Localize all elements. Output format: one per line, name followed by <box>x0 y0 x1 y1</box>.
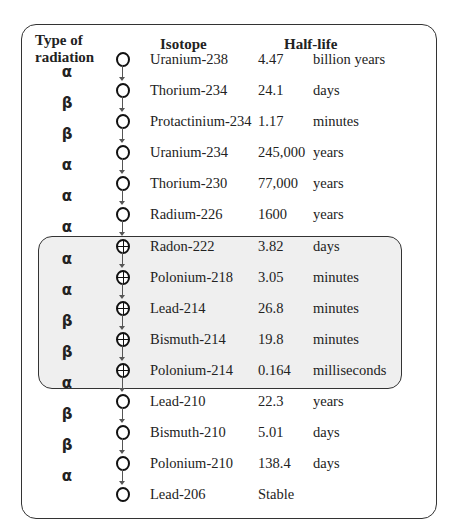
half-life-unit: minutes <box>313 113 359 130</box>
radiation-type-label: α <box>58 187 76 205</box>
half-life-unit: years <box>313 393 344 410</box>
radiation-type-label: α <box>58 281 76 299</box>
half-life-unit: minutes <box>313 269 359 286</box>
hatched-nucleus-icon <box>116 239 130 254</box>
decay-arrow-icon <box>122 407 123 421</box>
radiation-type-label: α <box>58 218 76 236</box>
decay-arrow-icon <box>122 65 123 79</box>
header-half-life: Half-life <box>284 37 337 52</box>
radiation-type-label: α <box>58 156 76 174</box>
half-life-value: 1600 <box>258 206 287 223</box>
radiation-type-label: β <box>58 312 76 330</box>
nucleus-icon <box>116 456 130 471</box>
half-life-value: 5.01 <box>258 424 283 441</box>
decay-arrow-icon <box>122 345 123 359</box>
half-life-value: 3.05 <box>258 269 283 286</box>
half-life-value: 19.8 <box>258 331 283 348</box>
radiation-type-label: β <box>58 94 76 112</box>
half-life-value: 245,000 <box>258 144 305 161</box>
radiation-type-label: α <box>58 250 76 268</box>
half-life-value: 24.1 <box>258 82 283 99</box>
half-life-unit: minutes <box>313 331 359 348</box>
half-life-unit: years <box>313 206 344 223</box>
half-life-unit: days <box>313 82 340 99</box>
hatched-nucleus-icon <box>116 301 130 316</box>
isotope-name: Thorium-234 <box>150 82 227 99</box>
nucleus-icon <box>116 52 130 67</box>
nucleus-icon <box>116 145 130 160</box>
radiation-type-label: β <box>58 436 76 454</box>
decay-arrow-icon <box>122 283 123 297</box>
half-life-unit: milliseconds <box>313 362 386 379</box>
half-life-unit: years <box>313 175 344 192</box>
half-life-value: Stable <box>258 486 294 503</box>
isotope-name: Lead-206 <box>150 486 206 503</box>
decay-arrow-icon <box>122 376 123 390</box>
isotope-name: Bismuth-214 <box>150 331 226 348</box>
decay-arrow-icon <box>122 96 123 110</box>
half-life-value: 4.47 <box>258 51 283 68</box>
radiation-type-label: α <box>58 63 76 81</box>
half-life-value: 26.8 <box>258 300 283 317</box>
nucleus-icon <box>116 83 130 98</box>
radiation-type-label: α <box>58 467 76 485</box>
hatched-nucleus-icon <box>116 363 130 378</box>
radiation-type-label: β <box>58 343 76 361</box>
half-life-value: 22.3 <box>258 393 283 410</box>
isotope-name: Lead-214 <box>150 300 206 317</box>
isotope-name: Lead-210 <box>150 393 206 410</box>
isotope-name: Bismuth-210 <box>150 424 226 441</box>
half-life-unit: billion years <box>313 51 385 68</box>
isotope-name: Polonium-214 <box>150 362 233 379</box>
nucleus-icon <box>116 176 130 191</box>
half-life-unit: days <box>313 455 340 472</box>
half-life-unit: days <box>313 424 340 441</box>
decay-arrow-icon <box>122 220 123 234</box>
hatched-nucleus-icon <box>116 270 130 285</box>
isotope-name: Uranium-238 <box>150 51 228 68</box>
decay-arrow-icon <box>122 469 123 483</box>
half-life-unit: minutes <box>313 300 359 317</box>
isotope-name: Polonium-210 <box>150 455 233 472</box>
nucleus-icon <box>116 394 130 409</box>
decay-arrow-icon <box>122 314 123 328</box>
radiation-type-label: β <box>58 405 76 423</box>
radiation-type-label: β <box>58 125 76 143</box>
decay-arrow-icon <box>122 252 123 266</box>
decay-arrow-icon <box>122 127 123 141</box>
header-isotope: Isotope <box>160 37 207 52</box>
isotope-name: Thorium-230 <box>150 175 227 192</box>
nucleus-icon <box>116 487 130 502</box>
nucleus-icon <box>116 207 130 222</box>
half-life-unit: years <box>313 144 344 161</box>
nucleus-icon <box>116 425 130 440</box>
isotope-name: Radon-222 <box>150 238 214 255</box>
isotope-name: Polonium-218 <box>150 269 233 286</box>
half-life-unit: days <box>313 238 340 255</box>
hatched-nucleus-icon <box>116 332 130 347</box>
decay-arrow-icon <box>122 158 123 172</box>
isotope-name: Radium-226 <box>150 206 223 223</box>
half-life-value: 0.164 <box>258 362 291 379</box>
half-life-value: 1.17 <box>258 113 283 130</box>
half-life-value: 138.4 <box>258 455 291 472</box>
header-type-line1: Type of <box>35 33 83 48</box>
half-life-value: 3.82 <box>258 238 283 255</box>
radiation-type-label: α <box>58 374 76 392</box>
decay-arrow-icon <box>122 189 123 203</box>
isotope-name: Uranium-234 <box>150 144 228 161</box>
decay-arrow-icon <box>122 438 123 452</box>
nucleus-icon <box>116 114 130 129</box>
half-life-value: 77,000 <box>258 175 298 192</box>
isotope-name: Protactinium-234 <box>150 113 252 130</box>
isotope-row: Lead-206Stable <box>0 486 458 506</box>
